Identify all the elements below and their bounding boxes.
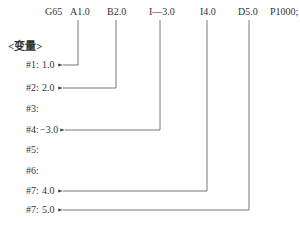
connector-i-neg-to-4: [65, 20, 160, 130]
connector-i-to-7a: [63, 20, 207, 191]
connector-a-to-1: [63, 20, 78, 65]
connector-lines: [0, 0, 300, 225]
connector-b-to-2: [63, 20, 116, 88]
connector-d-to-7b: [63, 20, 249, 210]
